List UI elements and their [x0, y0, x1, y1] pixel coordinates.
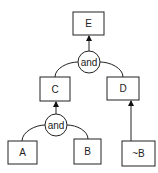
node-E[interactable]: E: [73, 12, 104, 35]
edge-C-to-and1: [55, 62, 78, 77]
node-D-label: D: [119, 83, 126, 94]
node-E-label: E: [85, 18, 92, 29]
node-B[interactable]: B: [74, 139, 101, 164]
node-notB-label: ~B: [132, 148, 145, 159]
gate-and2-label: and: [48, 120, 65, 131]
node-C[interactable]: C: [40, 77, 70, 101]
node-D[interactable]: D: [107, 77, 139, 100]
gate-and2[interactable]: and: [45, 114, 67, 136]
node-A-label: A: [19, 147, 26, 158]
node-A[interactable]: A: [8, 141, 37, 164]
node-notB[interactable]: ~B: [122, 141, 155, 166]
diagram-canvas: E C D A B ~B and and: [0, 0, 158, 173]
gate-and1-label: and: [81, 57, 98, 68]
gate-and1[interactable]: and: [78, 51, 100, 73]
edge-B-to-and2: [67, 125, 88, 139]
node-B-label: B: [84, 146, 91, 157]
edge-D-to-and1: [100, 62, 123, 77]
node-C-label: C: [51, 84, 58, 95]
edge-A-to-and2: [22, 125, 45, 141]
